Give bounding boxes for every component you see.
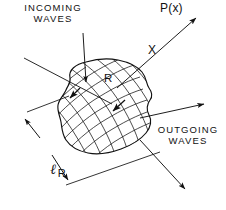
region-label: R xyxy=(104,72,113,85)
incoming-waves-label: INCOMING WAVES xyxy=(14,3,92,24)
outgoing-ray-right xyxy=(140,104,204,118)
scale-symbol: ℓ xyxy=(50,162,56,177)
outgoing-ray-lower-right xyxy=(140,140,185,189)
outgoing-waves-label: OUTGOING WAVES xyxy=(152,125,224,146)
scale-subscript: R xyxy=(58,167,67,179)
observation-ray-to-px xyxy=(117,18,196,88)
direction-axis-label: X xyxy=(148,44,156,57)
observation-point-label: P(x) xyxy=(160,2,183,15)
scale-length-label: ℓR xyxy=(30,142,70,166)
scattering-diagram: INCOMING WAVES P(x) X OUTGOING WAVES R ℓ… xyxy=(0,0,226,210)
